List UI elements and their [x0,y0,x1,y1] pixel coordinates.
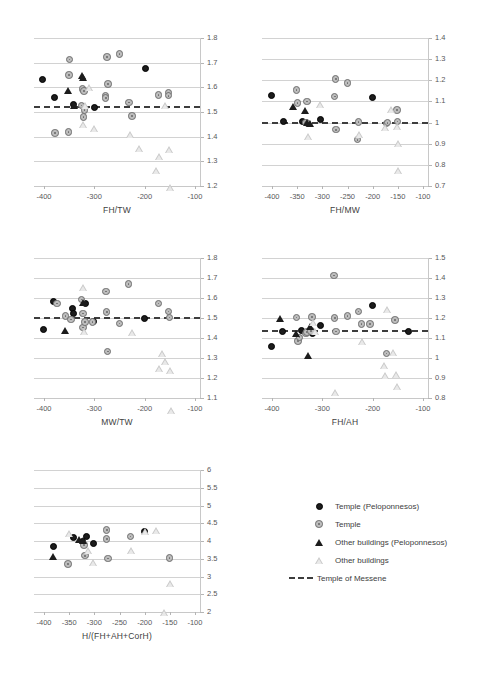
y-tick-label: 6 [207,465,211,474]
x-tickmark [145,612,146,615]
data-point-open-circle [104,555,112,563]
legend-label: Other buildings [335,556,389,565]
figure-root: 1.21.31.41.51.61.71.8-400-300-200-100FH/… [0,0,483,677]
legend-marker [288,572,314,584]
data-point-open-triangle [89,559,97,566]
y-tick-label: 4 [207,536,211,545]
legend-label: Other buildings (Peloponnesos) [335,538,447,547]
filled-circle-icon [316,503,323,510]
data-point-open-triangle [141,528,149,535]
y-tick-label: 3.5 [207,554,217,563]
open-triangle-icon [315,557,323,564]
x-tickmark [170,612,171,615]
axis-title-h-fh-ah-corh: H/(FH+AH+CorH) [34,631,200,641]
data-point-open-circle [127,533,135,541]
x-tick-label: -300 [80,618,108,627]
axis-right [200,470,201,612]
legend-label: Temple (Peloponnesos) [335,502,419,511]
legend-marker [306,500,332,512]
y-tick-label: 3 [207,572,211,581]
data-point-filled-triangle [79,537,87,544]
gridline-y [34,594,200,595]
legend-marker [306,518,332,530]
legend-item: Other buildings (Peloponnesos) [306,536,447,548]
x-tick-label: -250 [106,618,134,627]
x-tick-label: -200 [131,618,159,627]
gridline-y [34,559,200,560]
x-tick-label: -400 [30,618,58,627]
y-tick-label: 5 [207,501,211,510]
gridline-y [34,577,200,578]
data-point-open-circle [103,526,111,534]
gridline-y [34,541,200,542]
data-point-open-circle [166,554,174,562]
x-tickmark [195,612,196,615]
data-point-open-triangle [84,547,92,554]
y-tick-label: 2 [207,607,211,616]
y-tickmark [200,612,204,613]
data-point-open-triangle [127,547,135,554]
x-tickmark [94,612,95,615]
x-tickmark [44,612,45,615]
open-circle-icon [315,520,323,528]
data-point-open-triangle [160,609,168,616]
y-tick-label: 5.5 [207,483,217,492]
data-point-filled-circle [50,543,57,550]
data-point-open-triangle [152,527,160,534]
legend-marker [306,554,332,566]
legend-label: Temple of Messene [317,574,386,583]
y-tick-label: 2.5 [207,589,217,598]
legend-item: Temple [306,518,361,530]
x-tickmark [69,612,70,615]
dashed-line-icon [289,577,313,579]
data-point-filled-circle [90,540,97,547]
x-tick-label: -350 [55,618,83,627]
data-point-open-circle [64,560,72,568]
gridline-y [34,488,200,489]
x-tick-label: -150 [156,618,184,627]
legend-label: Temple [335,520,361,529]
legend: Temple (Peloponnesos)TempleOther buildin… [288,500,478,590]
x-tickmark [120,612,121,615]
gridline-y [34,506,200,507]
data-point-filled-triangle [49,553,57,560]
data-point-open-triangle [65,530,73,537]
gridline-y [34,470,200,471]
legend-item: Temple of Messene [288,572,386,584]
y-tick-label: 4.5 [207,518,217,527]
legend-item: Other buildings [306,554,389,566]
legend-item: Temple (Peloponnesos) [306,500,419,512]
legend-marker [306,536,332,548]
data-point-open-triangle [166,580,174,587]
gridline-y [34,523,200,524]
x-tick-label: -100 [181,618,209,627]
filled-triangle-icon [315,539,323,546]
axis-bottom [34,612,200,613]
